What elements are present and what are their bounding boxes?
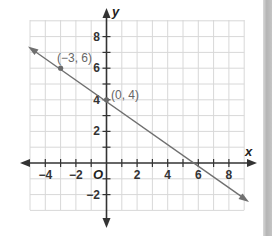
y-tick-label: 2 [93, 124, 100, 138]
x-tick-label: −2 [69, 168, 83, 182]
point-0-4 [104, 97, 109, 102]
y-axis-up-arrow-icon [103, 8, 111, 18]
y-tick-label: 8 [93, 30, 100, 44]
origin-label: O [93, 167, 103, 182]
x-axis-name: x [244, 144, 253, 159]
page-edge-strip [263, 0, 272, 236]
x-axis-left-arrow-icon [20, 159, 30, 167]
y-axis-name: y [111, 4, 120, 19]
point-label-0-4: (0, 4) [111, 88, 139, 102]
x-tick-label: −4 [38, 168, 52, 182]
y-tick-label: 6 [93, 61, 100, 75]
point-label-neg3-6: (−3, 6) [57, 51, 92, 65]
x-tick-label: 4 [164, 168, 171, 182]
x-tick-label: 2 [134, 168, 141, 182]
x-axis-right-arrow-icon [247, 159, 257, 167]
y-tick-label: −2 [86, 188, 100, 202]
y-axis-down-arrow-icon [103, 218, 111, 228]
x-tick-label: 8 [226, 168, 233, 182]
x-tick-label: 6 [195, 168, 202, 182]
coordinate-plane: y x −4 −2 2 4 6 8 O 8 6 4 2 −2 (−3, 6) (… [0, 0, 272, 236]
point-neg3-6 [58, 66, 63, 71]
